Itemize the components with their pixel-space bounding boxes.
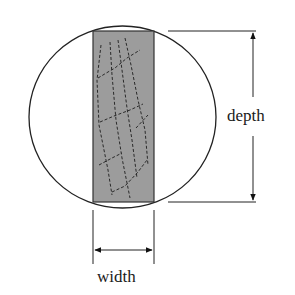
depth-label: depth — [227, 107, 265, 124]
width-label: width — [97, 268, 136, 285]
width-dimension — [93, 210, 154, 264]
log-section-diagram — [0, 0, 295, 295]
timber-section — [93, 31, 154, 202]
